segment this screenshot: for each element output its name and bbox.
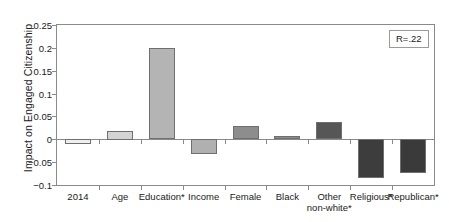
x-axis-label-black: Black xyxy=(276,191,299,202)
bars-layer xyxy=(57,25,434,185)
x-axis-bottom-tick xyxy=(99,186,100,190)
x-axis-bottom-tick xyxy=(308,186,309,190)
scan-artifact-strip xyxy=(0,0,449,6)
y-tick-label: 0.15 xyxy=(12,65,52,76)
x-tick-mark xyxy=(266,140,267,144)
x-axis-bottom-tick xyxy=(183,186,184,190)
x-axis-label-female: Female xyxy=(230,191,262,202)
y-tick-label: 0.05 xyxy=(12,111,52,122)
x-tick-mark xyxy=(350,140,351,144)
y-axis-tick-labels: 0.250.20.150.10.050−0.05−0.1 xyxy=(8,24,52,186)
x-tick-mark xyxy=(225,140,226,144)
x-axis-label-age: Age xyxy=(111,191,128,202)
bar-other-non-white xyxy=(316,122,342,139)
x-axis-label-religious: Religious* xyxy=(350,191,393,202)
x-axis-bottom-tick xyxy=(225,186,226,190)
bar-female xyxy=(233,126,259,139)
x-axis-bottom-tick xyxy=(350,186,351,190)
bar-education xyxy=(149,48,175,139)
plot-area xyxy=(56,24,435,186)
x-tick-mark xyxy=(183,140,184,144)
bar-republican xyxy=(400,139,426,173)
x-axis-label-income: Income xyxy=(188,191,219,202)
bar-income xyxy=(191,139,217,154)
bar-religious xyxy=(358,139,384,178)
y-tick-label: 0.1 xyxy=(12,88,52,99)
y-tick-label: −0.1 xyxy=(12,180,52,191)
x-axis-bottom-tick xyxy=(266,186,267,190)
x-tick-mark xyxy=(308,140,309,144)
x-axis-label-2014: 2014 xyxy=(67,191,88,202)
y-tick-label: −0.05 xyxy=(12,157,52,168)
y-tick-label: 0.2 xyxy=(12,42,52,53)
x-tick-mark xyxy=(141,140,142,144)
bar-black xyxy=(274,136,300,139)
y-tick-label: 0 xyxy=(12,134,52,145)
x-axis-label-education: Education* xyxy=(139,191,185,202)
x-axis-label-other-non-white: Othernon-white* xyxy=(307,191,352,213)
r-value-annotation: R=.22 xyxy=(389,30,429,48)
y-tick-label: 0.25 xyxy=(12,20,52,31)
x-axis-bottom-tick xyxy=(392,186,393,190)
x-axis-bottom-tick xyxy=(141,186,142,190)
x-tick-mark xyxy=(392,140,393,144)
x-tick-mark xyxy=(99,140,100,144)
x-axis-category-labels: 2014AgeEducation*IncomeFemaleBlackOthern… xyxy=(56,191,435,222)
bar-2014 xyxy=(65,139,91,144)
bar-age xyxy=(107,131,133,140)
x-axis-label-republican: Republican* xyxy=(387,191,438,202)
chart-figure: Impact on Engaged Citizenship 0.250.20.1… xyxy=(0,0,449,222)
